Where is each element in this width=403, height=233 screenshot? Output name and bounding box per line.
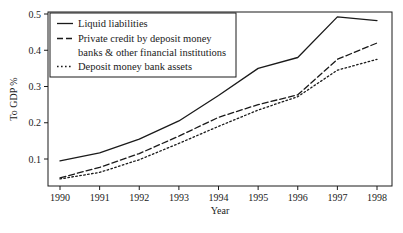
- legend-label-1: Private credit by deposit money: [78, 33, 212, 44]
- x-tick-label-1991: 1991: [90, 192, 110, 203]
- y-tick-label-0.5: 0.5: [29, 9, 42, 20]
- y-tick-label-0.4: 0.4: [29, 45, 42, 56]
- x-tick-label-1993: 1993: [169, 192, 189, 203]
- x-tick-label-1992: 1992: [129, 192, 149, 203]
- chart-container: 0.10.20.30.40.5 199019911992199319941995…: [0, 0, 403, 233]
- chart-legend: Liquid liabilitiesPrivate credit by depo…: [50, 13, 236, 77]
- y-tick-label-0.1: 0.1: [29, 154, 42, 165]
- x-tick-label-1997: 1997: [327, 192, 347, 203]
- x-tick-label-1996: 1996: [288, 192, 308, 203]
- x-axis-tick-labels: 199019911992199319941995199619971998: [50, 192, 387, 203]
- x-tick-label-1994: 1994: [209, 192, 229, 203]
- legend-label-3: Deposit money bank assets: [78, 61, 192, 72]
- x-axis-title: Year: [211, 205, 230, 216]
- line-chart: 0.10.20.30.40.5 199019911992199319941995…: [0, 0, 403, 233]
- legend-label-2: banks & other financial institutions: [78, 47, 226, 58]
- y-tick-label-0.2: 0.2: [29, 117, 42, 128]
- x-tick-label-1990: 1990: [50, 192, 70, 203]
- y-tick-label-0.3: 0.3: [29, 81, 42, 92]
- x-tick-label-1998: 1998: [367, 192, 387, 203]
- legend-label-0: Liquid liabilities: [78, 18, 148, 29]
- x-tick-label-1995: 1995: [248, 192, 268, 203]
- y-axis-title: To GDP %: [8, 77, 19, 120]
